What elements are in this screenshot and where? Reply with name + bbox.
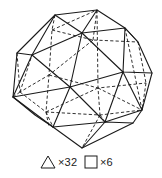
legend-item-squares: ×6 [84,153,113,171]
square-count: ×6 [100,156,113,168]
square-icon [84,155,98,169]
legend-item-triangles: ×32 [40,153,77,171]
snub-cube-diagram [0,0,162,178]
visible-edges [13,10,152,148]
triangle-icon [40,155,56,169]
legend: ×32 ×6 [0,153,162,173]
triangle-count: ×32 [58,156,77,168]
